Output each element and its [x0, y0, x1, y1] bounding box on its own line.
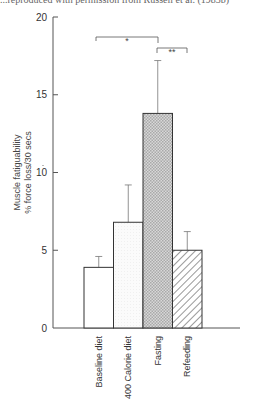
- bar-chart: 05101520 *** Muscle fatiguability% force…: [0, 0, 271, 408]
- y-tick-label: 0: [41, 323, 47, 334]
- x-category-label: Baseline diet: [94, 336, 104, 388]
- tick-mark-dot: [42, 165, 43, 166]
- bar-400-calorie-diet: [114, 222, 144, 328]
- x-category-label: 400 Calorie diet: [123, 336, 133, 400]
- significance-marker: *: [125, 36, 129, 46]
- y-tick-label: 10: [36, 167, 48, 178]
- bar-refeeding: [173, 250, 203, 328]
- y-tick-label: 5: [41, 245, 47, 256]
- y-tick-label: 20: [36, 12, 48, 23]
- y-tick-label: 15: [36, 89, 48, 100]
- y-axis-label: Muscle fatiguability: [12, 134, 22, 211]
- bars: [84, 61, 202, 328]
- significance-annotations: ***: [96, 36, 187, 57]
- x-category-label: Refeeding: [182, 336, 192, 377]
- significance-marker: **: [168, 47, 176, 57]
- bar-fasting: [143, 113, 173, 328]
- bar-baseline-diet: [84, 267, 114, 328]
- y-axis-label: % force loss/30 secs: [23, 131, 33, 214]
- x-category-label: Fasting: [153, 336, 163, 366]
